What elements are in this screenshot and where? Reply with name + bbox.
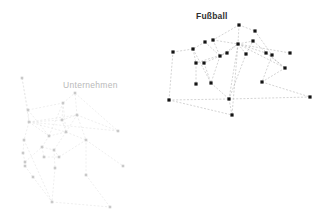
graph-node[interactable] xyxy=(308,95,311,98)
graph-edge xyxy=(75,93,77,115)
graph-edge xyxy=(77,115,86,140)
graph-edge xyxy=(229,44,238,99)
graph-node[interactable] xyxy=(61,119,64,122)
graph-edge xyxy=(86,175,110,207)
graph-edge xyxy=(204,63,211,83)
graph-node[interactable] xyxy=(253,29,256,32)
graph-node[interactable] xyxy=(211,38,214,41)
graph-edge xyxy=(62,103,63,120)
graph-node[interactable] xyxy=(54,167,57,170)
graph-edge xyxy=(262,82,310,97)
graph-edge xyxy=(204,53,227,63)
graph-node[interactable] xyxy=(194,61,197,64)
graph-node[interactable] xyxy=(21,77,24,80)
graph-edge xyxy=(25,147,42,162)
graph-node[interactable] xyxy=(251,39,254,42)
graph-edge xyxy=(169,52,173,100)
graph-node[interactable] xyxy=(288,51,291,54)
graph-edge xyxy=(173,49,193,52)
graph-node[interactable] xyxy=(227,97,230,100)
graph-node[interactable] xyxy=(24,165,27,168)
graph-node[interactable] xyxy=(225,51,228,54)
graph-edge xyxy=(54,150,55,168)
graph-node[interactable] xyxy=(51,201,54,204)
edge-group-unternehmen xyxy=(22,78,123,207)
graph-edge xyxy=(42,147,44,157)
graph-node[interactable] xyxy=(270,53,273,56)
graph-node[interactable] xyxy=(191,47,194,50)
graph-node[interactable] xyxy=(202,61,205,64)
graph-node[interactable] xyxy=(22,152,25,155)
graph-node[interactable] xyxy=(109,206,112,209)
graph-edge xyxy=(42,136,49,147)
graph-node[interactable] xyxy=(171,50,174,53)
graph-node[interactable] xyxy=(264,51,267,54)
graph-node[interactable] xyxy=(85,174,88,177)
graph-edge xyxy=(238,44,290,53)
graph-edge xyxy=(255,31,272,55)
graph-edge xyxy=(238,44,285,68)
graph-node[interactable] xyxy=(230,113,233,116)
graph-edge xyxy=(211,56,220,83)
graph-node[interactable] xyxy=(62,102,65,105)
cluster-labels-layer: FußballUnternehmen xyxy=(63,11,228,90)
figure-canvas: FußballUnternehmen xyxy=(0,0,331,222)
graph-edge xyxy=(42,147,54,150)
graph-edge xyxy=(262,68,285,82)
graph-edge xyxy=(205,42,220,56)
graph-edge xyxy=(77,115,118,131)
graph-edge xyxy=(266,53,285,68)
graph-node[interactable] xyxy=(237,23,240,26)
graph-node[interactable] xyxy=(209,81,212,84)
graph-node[interactable] xyxy=(27,109,30,112)
node-group-unternehmen xyxy=(21,77,125,209)
graph-node[interactable] xyxy=(122,165,125,168)
graph-node[interactable] xyxy=(43,156,46,159)
graph-edge xyxy=(213,40,238,44)
graph-edge xyxy=(75,93,118,131)
graph-node[interactable] xyxy=(41,146,44,149)
graph-edge xyxy=(29,120,62,122)
graph-node[interactable] xyxy=(53,149,56,152)
graph-node[interactable] xyxy=(28,121,31,124)
graph-edge xyxy=(213,25,239,40)
graph-node[interactable] xyxy=(65,131,68,134)
graph-node[interactable] xyxy=(85,139,88,142)
graph-node[interactable] xyxy=(23,139,26,142)
graph-node[interactable] xyxy=(260,80,263,83)
network-graph-svg: FußballUnternehmen xyxy=(0,0,331,222)
graph-node[interactable] xyxy=(244,52,247,55)
graph-edge xyxy=(246,41,253,54)
graph-edge xyxy=(63,93,75,103)
graph-edge xyxy=(29,122,49,136)
graph-edge xyxy=(24,140,52,202)
graph-edge xyxy=(28,103,63,110)
graph-node[interactable] xyxy=(32,176,35,179)
graph-node[interactable] xyxy=(283,66,286,69)
graph-edge xyxy=(193,49,211,83)
graph-edge xyxy=(29,115,77,122)
graph-edge xyxy=(229,99,232,115)
graph-node[interactable] xyxy=(203,40,206,43)
graph-node[interactable] xyxy=(58,156,61,159)
graph-edge xyxy=(213,40,220,56)
graph-edge xyxy=(23,153,25,162)
cluster-label-fussball: Fußball xyxy=(196,11,228,21)
graph-edge xyxy=(193,49,196,63)
graph-node[interactable] xyxy=(194,82,197,85)
graph-node[interactable] xyxy=(24,161,27,164)
graph-node[interactable] xyxy=(117,130,120,133)
graph-edge xyxy=(29,122,66,132)
graph-node[interactable] xyxy=(76,114,79,117)
graph-edge xyxy=(169,99,229,100)
graph-edge xyxy=(22,78,28,110)
graph-node[interactable] xyxy=(218,54,221,57)
graph-edge xyxy=(229,97,310,99)
edge-group-fussball xyxy=(169,25,310,115)
graph-node[interactable] xyxy=(48,135,51,138)
graph-edge xyxy=(232,44,238,115)
graph-node[interactable] xyxy=(236,42,239,45)
graph-node[interactable] xyxy=(167,98,170,101)
graph-node[interactable] xyxy=(74,92,77,95)
graph-edge xyxy=(253,41,285,68)
